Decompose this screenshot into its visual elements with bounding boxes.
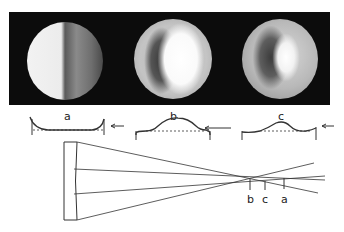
profile-b: [136, 118, 235, 140]
focus-label-c: c: [262, 194, 268, 205]
profile-c: [242, 122, 334, 140]
focus-label-a: a: [281, 194, 288, 205]
line-drawing: [0, 0, 344, 232]
rays: [74, 142, 325, 220]
mirror: [64, 142, 77, 220]
focus-label-b: b: [247, 194, 254, 205]
profile-a: [30, 117, 124, 135]
